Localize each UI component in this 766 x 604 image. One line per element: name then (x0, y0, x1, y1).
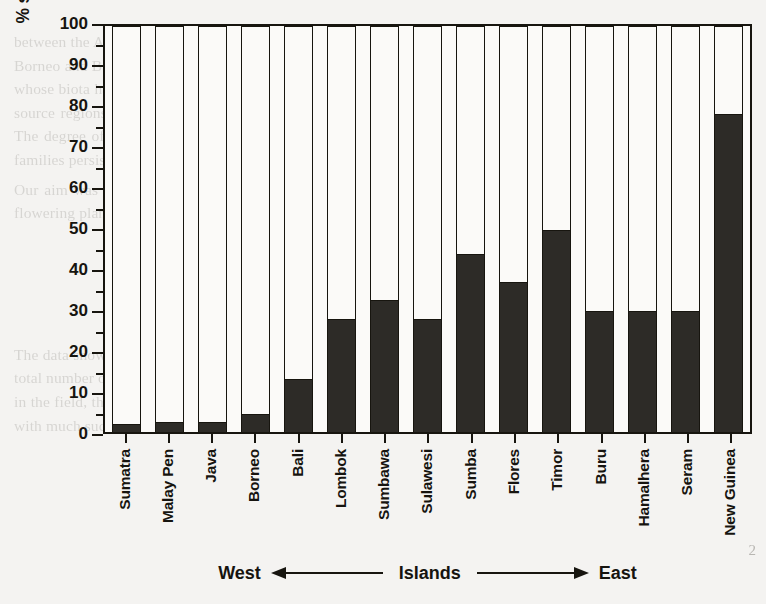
y-tick-label-100: 100 (60, 14, 88, 34)
x-tick-sulawesi (406, 434, 449, 444)
x-axis-ticks (103, 434, 752, 444)
bar-fill (199, 422, 226, 432)
y-tick-70 (92, 147, 103, 149)
bar-buru (578, 26, 621, 432)
x-axis-label-sumbawa: Sumbawa (375, 449, 393, 520)
bar-sulawesi (406, 26, 449, 432)
bar-outline (155, 26, 184, 432)
bar-fill (371, 300, 398, 432)
y-tick-label-40: 40 (69, 260, 88, 280)
y-tick-label-30: 30 (69, 301, 88, 321)
x-label-cell: Sumba (449, 447, 492, 547)
y-tick-label-0: 0 (79, 424, 88, 444)
x-label-cell: Sulawesi (406, 447, 449, 547)
x-tick-malay-pen (146, 434, 189, 444)
left-arrow-icon (271, 566, 389, 580)
x-label-cell: Flores (492, 447, 535, 547)
bar-fill (543, 230, 570, 433)
x-axis-label-malay-pen: Malay Pen (159, 449, 177, 523)
bar-hamalhera (621, 26, 664, 432)
x-tick-lombok (319, 434, 362, 444)
bar-fill (156, 422, 183, 432)
y-tick-label-10: 10 (69, 383, 88, 403)
bar-fill (242, 414, 269, 432)
x-axis-label-seram: Seram (678, 449, 696, 495)
bar-fill (328, 319, 355, 432)
x-axis-label-sulawesi: Sulawesi (418, 449, 436, 514)
y-tick-45 (96, 250, 103, 252)
y-tick-label-20: 20 (69, 342, 88, 362)
bar-java (191, 26, 234, 432)
x-tick-buru (579, 434, 622, 444)
bar-seram (664, 26, 707, 432)
bar-sumatra (105, 26, 148, 432)
y-tick-85 (96, 86, 103, 88)
bar-outline (198, 26, 227, 432)
x-tick-flores (492, 434, 535, 444)
y-tick-label-90: 90 (69, 55, 88, 75)
y-tick-label-50: 50 (69, 219, 88, 239)
y-tick-10 (92, 393, 103, 395)
bar-series (105, 26, 750, 432)
bar-timor (535, 26, 578, 432)
bar-outline (671, 26, 700, 432)
x-label-cell: New Guinea (709, 447, 752, 547)
bar-outline (628, 26, 657, 432)
direction-label-west: West (218, 563, 261, 584)
bar-outline (112, 26, 141, 432)
bar-fill (715, 114, 742, 432)
x-label-cell: Java (190, 447, 233, 547)
bar-outline (241, 26, 270, 432)
x-axis-label-flores: Flores (505, 449, 523, 494)
x-label-cell: Borneo (233, 447, 276, 547)
bar-bali (277, 26, 320, 432)
y-tick-label-70: 70 (69, 137, 88, 157)
bar-outline (585, 26, 614, 432)
x-tick-java (190, 434, 233, 444)
y-tick-15 (96, 373, 103, 375)
x-tick-bali (276, 434, 319, 444)
bar-fill (672, 311, 699, 433)
bar-new-guinea (707, 26, 750, 432)
x-axis-label-hamalhera: Hamalhera (635, 449, 653, 526)
bar-outline (542, 26, 571, 432)
x-label-cell: Sumatra (103, 447, 146, 547)
x-axis-label-lombok: Lombok (332, 449, 350, 508)
bar-sumba (449, 26, 492, 432)
bar-malay-pen (148, 26, 191, 432)
x-label-cell: Hamalhera (622, 447, 665, 547)
bar-outline (284, 26, 313, 432)
bar-fill (457, 254, 484, 432)
right-arrow-icon (471, 566, 589, 580)
bar-fill (285, 379, 312, 432)
x-label-cell: Lombok (319, 447, 362, 547)
page-number: 2 (749, 542, 757, 559)
x-tick-seram (665, 434, 708, 444)
bar-outline (370, 26, 399, 432)
x-tick-sumbawa (363, 434, 406, 444)
bar-sumbawa (363, 26, 406, 432)
x-label-cell: Bali (276, 447, 319, 547)
x-tick-new-guinea (709, 434, 752, 444)
bar-borneo (234, 26, 277, 432)
x-axis-category-labels: SumatraMalay PenJavaBorneoBaliLombokSumb… (103, 447, 752, 547)
y-tick-50 (92, 229, 103, 231)
bar-outline (456, 26, 485, 432)
x-tick-sumatra (103, 434, 146, 444)
x-axis-label-bali: Bali (289, 449, 307, 477)
x-label-cell: Timor (536, 447, 579, 547)
bar-outline (413, 26, 442, 432)
bar-fill (113, 424, 140, 432)
x-label-cell: Malay Pen (146, 447, 189, 547)
y-tick-100 (92, 24, 103, 26)
y-tick-20 (92, 352, 103, 354)
x-tick-borneo (233, 434, 276, 444)
x-label-cell: Sumbawa (363, 447, 406, 547)
y-tick-30 (92, 311, 103, 313)
bar-flores (492, 26, 535, 432)
direction-label-east: East (599, 563, 637, 584)
y-tick-25 (96, 332, 103, 334)
bar-outline (714, 26, 743, 432)
y-tick-0 (92, 434, 103, 436)
bar-fill (629, 311, 656, 433)
